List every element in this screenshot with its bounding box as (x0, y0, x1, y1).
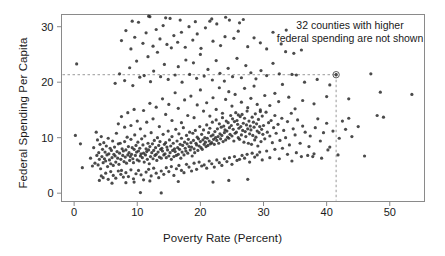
x-tick-label: 20 (194, 206, 206, 218)
x-tick-label: 30 (257, 206, 269, 218)
annotation-text: 32 counties with higher federal spending… (262, 19, 438, 45)
y-axis-title: Federal Spending Per Capita (17, 18, 29, 208)
x-tick-label: 10 (131, 206, 143, 218)
y-tick-label: 0 (28, 187, 54, 199)
y-tick-label: 20 (28, 76, 54, 88)
scatter-plot-figure: 010203040500102030 Poverty Rate (Percent… (0, 0, 445, 256)
x-tick-label: 40 (321, 206, 333, 218)
annotation-line-1: 32 counties with higher (262, 19, 438, 32)
annotation-line-2: federal spending are not shown (262, 32, 438, 45)
y-tick-label: 10 (28, 132, 54, 144)
y-tick-label: 30 (28, 21, 54, 33)
x-tick-label: 50 (384, 206, 396, 218)
x-tick-label: 0 (71, 206, 77, 218)
x-axis-title: Poverty Rate (Percent) (0, 232, 445, 244)
